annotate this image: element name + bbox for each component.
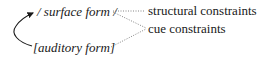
surface-form-label: / surface form / (37, 5, 117, 18)
structural-constraints-label: structural constraints (148, 4, 257, 17)
dotted-line-auditory-cue (111, 29, 146, 47)
cue-constraints-label: cue constraints (148, 22, 226, 35)
curved-arrow (14, 13, 33, 46)
auditory-form-label: [auditory form] (33, 41, 115, 54)
dotted-line-surface-cue (113, 12, 146, 28)
